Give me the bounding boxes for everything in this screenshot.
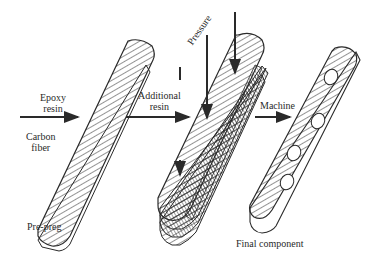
label-additional-resin: Additional resin <box>138 90 181 112</box>
label-line: Epoxy <box>40 92 66 103</box>
label-final-component: Final component <box>236 238 304 249</box>
label-epoxy-resin: Epoxy resin <box>40 92 66 114</box>
label-line: Additional <box>138 90 181 101</box>
label-machine: Machine <box>260 100 295 111</box>
label-line: Carbon <box>26 131 55 142</box>
composite-process-diagram: Epoxy resin Carbon fiber Pre-preg Additi… <box>0 0 380 261</box>
label-line: resin <box>138 101 181 112</box>
label-line: resin <box>40 103 66 114</box>
label-pre-preg: Pre-preg <box>27 221 61 232</box>
label-line: fiber <box>26 142 55 153</box>
label-carbon-fiber: Carbon fiber <box>26 131 55 153</box>
